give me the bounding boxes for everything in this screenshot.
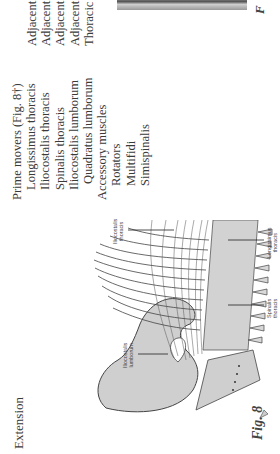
muscle-item: Multifidi [124,77,138,200]
prime-movers-title: Prime movers (Fig. 8†) [10,77,24,200]
action-item: Adjacent [68,1,82,46]
action-item: Thoracic [82,1,96,46]
muscle-item: Spinalis thoracis [53,77,67,200]
action-item: Adjacent [25,1,39,46]
muscle-item: Iliocostalis thoracis [38,77,52,200]
label-iliocostalis-lumborum: Iliocostalis lumborum [122,343,134,368]
action-item: Adjacent [39,1,53,46]
label-iliocostalis-thoracis: Iliocostalis thoracis [112,219,124,244]
muscle-list: Prime movers (Fig. 8†) Longissimus thora… [10,77,152,200]
photo-fragment [117,0,247,10]
figure-caption: Fig. 8 [250,406,266,440]
muscle-item: Iliocostalis lumborum [67,77,81,200]
accessory-muscles-title: Accessory muscles [95,77,109,200]
muscle-item: Quadratus lumborum [81,77,95,200]
spine-drawing [28,220,280,420]
muscle-item: Rotators [109,77,123,200]
document-page: Extension Prime movers (Fig. 8†) Longiss… [0,0,280,454]
next-figure-caption: F [252,5,268,14]
label-spinalis-thoracis: Spinalis thoracis [266,299,278,318]
muscle-item: Longissimus thoracis [24,77,38,200]
actions-column: Adjacent Adjacent Adjacent Adjacent Thor… [25,1,96,46]
muscle-item: Simispinalis [138,77,152,200]
section-heading: Extension [11,397,27,449]
label-longissimus-thoracis: Longissimus thoracis [266,227,278,258]
action-item: Adjacent [53,1,67,46]
spine-muscle-illustration: Iliocostalis thoracis Iliocostalis lumbo… [28,220,280,420]
